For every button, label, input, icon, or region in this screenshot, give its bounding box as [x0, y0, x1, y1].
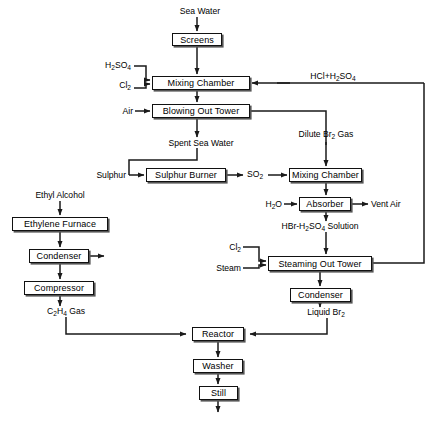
- label-dilute-br2-gas: Dilute Br2 Gas: [299, 130, 354, 139]
- arrow-h2so4-mixing1: [134, 66, 150, 80]
- node-steaming-out-tower-label: Steaming Out Tower: [278, 259, 361, 269]
- label-ethyl-alcohol-feed: Ethyl Alcohol: [35, 191, 84, 200]
- node-condenser-left[interactable]: Condenser: [29, 249, 89, 263]
- node-absorber[interactable]: Absorber: [299, 197, 351, 211]
- node-condenser-right[interactable]: Condenser: [290, 288, 351, 302]
- label-so2-stream: SO2: [247, 170, 263, 179]
- node-steaming-out-tower[interactable]: Steaming Out Tower: [268, 256, 372, 271]
- arrow-c2h4-reactor: [66, 317, 186, 334]
- label-h2o-feed: H2O: [265, 200, 282, 209]
- node-mixing-chamber-1[interactable]: Mixing Chamber: [152, 76, 250, 90]
- arrow-liquidbr2-reactor: [250, 318, 327, 334]
- label-sulphur-feed: Sulphur: [96, 171, 126, 180]
- node-condenser-right-label: Condenser: [298, 290, 343, 300]
- node-sulphur-burner[interactable]: Sulphur Burner: [146, 168, 226, 182]
- line-blowing-mixing2: [250, 111, 326, 145]
- node-screens-label: Screens: [180, 35, 214, 45]
- process-flow-diagram: Screens Mixing Chamber Blowing Out Tower…: [0, 0, 439, 438]
- line-steaming-recycle: [372, 83, 424, 263]
- node-ethylene-furnace-label: Ethylene Furnace: [24, 219, 96, 229]
- label-c2h4-gas: C2H4 Gas: [47, 307, 85, 316]
- label-cl2-feed: Cl2: [119, 81, 131, 90]
- node-still-label: Still: [211, 388, 226, 398]
- node-washer[interactable]: Washer: [193, 359, 243, 373]
- node-mixing-chamber-2[interactable]: Mixing Chamber: [289, 168, 362, 182]
- label-sea-water: Sea Water: [180, 7, 220, 16]
- node-compressor-label: Compressor: [34, 283, 84, 293]
- node-mixing-chamber-2-label: Mixing Chamber: [292, 170, 359, 180]
- label-steam-feed: Steam: [216, 264, 241, 273]
- label-h2so4-feed: H2SO4: [105, 61, 131, 70]
- node-blowing-out-tower[interactable]: Blowing Out Tower: [152, 104, 250, 118]
- node-mixing-chamber-1-label: Mixing Chamber: [168, 78, 235, 88]
- node-blowing-out-tower-label: Blowing Out Tower: [163, 106, 240, 116]
- label-liquid-br2: Liquid Br2: [307, 308, 345, 317]
- node-washer-label: Washer: [202, 361, 233, 371]
- label-hbr-h2so4-solution: HBr-H2SO4 Solution: [281, 222, 358, 231]
- label-cl2-steaming-feed: Cl2: [229, 243, 241, 252]
- node-compressor[interactable]: Compressor: [24, 281, 94, 295]
- node-still[interactable]: Still: [199, 386, 238, 400]
- arrow-steam-steaming: [243, 265, 266, 268]
- node-absorber-label: Absorber: [306, 199, 343, 209]
- label-air-feed: Air: [122, 107, 133, 116]
- node-ethylene-furnace[interactable]: Ethylene Furnace: [12, 217, 108, 231]
- label-vent-air: Vent Air: [371, 200, 401, 209]
- node-sulphur-burner-label: Sulphur Burner: [155, 170, 217, 180]
- node-condenser-left-label: Condenser: [37, 251, 82, 261]
- label-spent-sea-water: Spent Sea Water: [168, 139, 233, 148]
- node-screens[interactable]: Screens: [172, 33, 222, 46]
- arrow-cl2-steaming: [243, 247, 266, 261]
- node-reactor-label: Reactor: [202, 329, 234, 339]
- label-hcl-h2so4-recycle: HCl+H2SO4: [310, 72, 355, 81]
- node-reactor[interactable]: Reactor: [192, 327, 244, 341]
- arrow-cl2-mixing1: [134, 84, 150, 88]
